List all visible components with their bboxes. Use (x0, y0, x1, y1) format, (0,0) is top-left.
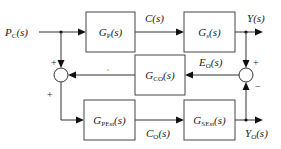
block-gsest: GSEst(s) (184, 100, 235, 140)
signal-co-label: CO(s) (146, 127, 170, 141)
signal-eo-label: EO(s) (198, 56, 223, 70)
block-gs-name: G (198, 26, 206, 38)
block-gco: GCO(s) (135, 55, 185, 95)
left-sum-top-sign: + (51, 57, 57, 68)
right-summing-junction: + − (239, 57, 261, 92)
signal-y-label: Y(s) (247, 12, 265, 25)
block-gp: GP(s) (86, 12, 135, 52)
signal-yo-label: YO(s) (245, 127, 268, 141)
block-gsest-sub: SEst (201, 120, 214, 128)
block-gco-arg: (s) (163, 69, 175, 82)
right-sum-top-sign: + (253, 57, 259, 68)
left-summing-junction: + + (47, 57, 68, 100)
block-gco-sub: CO (153, 75, 163, 83)
block-gpest-name: G (93, 114, 101, 126)
estimate-branch-point (244, 118, 247, 121)
block-gp-arg: (s) (111, 26, 123, 39)
svg-text:GP(s): GP(s) (99, 26, 123, 40)
block-gpest: GPEst(s) (84, 100, 135, 140)
signal-c-label: C(s) (145, 12, 164, 25)
block-gsest-arg: (s) (214, 114, 226, 127)
block-gp-name: G (99, 26, 107, 38)
input-label: PC(s) (4, 26, 28, 40)
block-gsest-name: G (193, 114, 201, 126)
stray-marker (107, 69, 110, 72)
block-gpest-arg: (s) (114, 114, 126, 127)
block-gs: Gs(s) (184, 12, 235, 52)
block-diagram: + + + − GP(s) Gs(s) GCO(s) GPEst(s) GSE (0, 0, 281, 149)
right-sum-bottom-sign: − (255, 81, 261, 92)
block-gco-name: G (145, 69, 153, 81)
svg-text:Gs(s): Gs(s) (198, 26, 221, 40)
block-gpest-sub: PEst (101, 120, 114, 128)
left-sum-bottom-sign: + (47, 89, 53, 100)
block-gs-arg: (s) (209, 26, 221, 39)
